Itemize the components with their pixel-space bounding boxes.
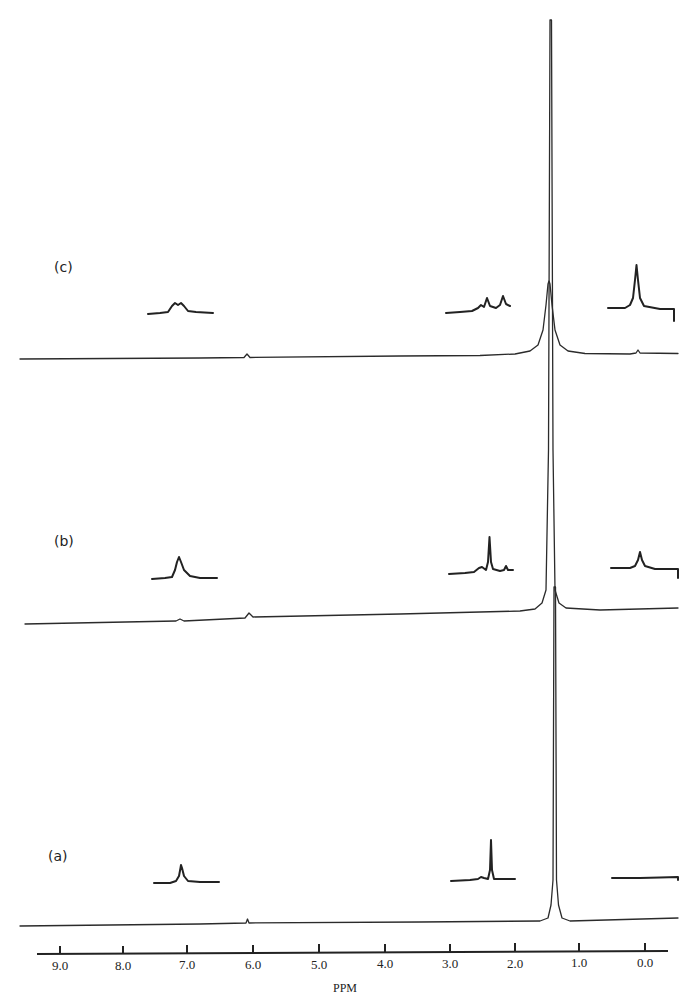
inset-a-aromatic bbox=[154, 865, 219, 883]
spectrum-label-b: (b) bbox=[54, 533, 74, 549]
x-tick-label: 7.0 bbox=[167, 957, 207, 973]
nmr-spectra-plot bbox=[0, 0, 700, 1004]
x-tick-label: 8.0 bbox=[103, 958, 143, 974]
x-axis-line bbox=[37, 951, 668, 954]
x-axis-label: PPM bbox=[325, 981, 365, 996]
spectrum-c-trace bbox=[20, 281, 678, 359]
x-tick-label: 5.0 bbox=[299, 957, 339, 973]
spectrum-a-trace bbox=[20, 587, 678, 926]
inset-a-aliphatic bbox=[451, 840, 515, 881]
x-tick-label: 4.0 bbox=[365, 956, 405, 972]
inset-c-aliphatic bbox=[446, 296, 510, 313]
x-tick-label: 6.0 bbox=[233, 957, 273, 973]
x-tick-label: 3.0 bbox=[430, 956, 470, 972]
x-tick-label: 0.0 bbox=[625, 955, 665, 971]
inset-c-aromatic bbox=[148, 303, 213, 314]
x-tick-label: 9.0 bbox=[40, 958, 80, 974]
inset-b-upfield bbox=[611, 552, 678, 578]
inset-a-upfield bbox=[612, 877, 678, 880]
spectrum-label-a: (a) bbox=[48, 848, 68, 864]
inset-b-aromatic bbox=[152, 557, 217, 579]
spectrum-b-trace bbox=[25, 20, 678, 624]
spectrum-label-c: (c) bbox=[54, 259, 73, 275]
inset-c-upfield bbox=[608, 265, 674, 321]
x-tick-label: 2.0 bbox=[495, 956, 535, 972]
x-tick-label: 1.0 bbox=[559, 955, 599, 971]
inset-b-aliphatic bbox=[449, 537, 513, 574]
